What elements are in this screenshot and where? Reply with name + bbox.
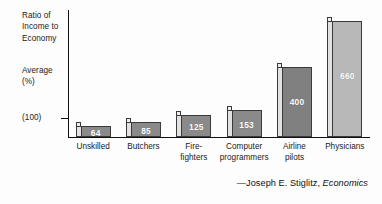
y-axis-title: Ratio of Income to Economy — [22, 10, 68, 44]
x-axis-label-line: fighters — [169, 153, 219, 164]
x-axis-label-butchers: Butchers — [118, 142, 168, 153]
bar-butchers: 85 — [126, 118, 161, 137]
x-axis-label-line: Airline — [269, 142, 319, 153]
bar-front-face: 125 — [181, 115, 211, 137]
x-axis-label-physicians: Physicians — [320, 142, 370, 153]
bar-front-face: 400 — [282, 67, 312, 137]
plot-area: 6485125153400660 — [68, 10, 370, 137]
bar-front-face: 660 — [332, 21, 362, 137]
bar-value-label: 660 — [333, 71, 361, 81]
x-axis-label-line: Computer — [219, 142, 269, 153]
bar-value-label: 85 — [132, 126, 160, 136]
bar-airline-pilots: 400 — [277, 63, 312, 137]
bar-value-label: 153 — [233, 120, 261, 130]
bar-fire-fighters: 125 — [176, 111, 211, 137]
x-axis-label-line: Physicians — [320, 142, 370, 153]
x-axis-label-line: pilots — [269, 153, 319, 164]
bar-value-label: 400 — [283, 97, 311, 107]
bar-front-face: 153 — [232, 110, 262, 137]
x-axis-label-unskilled: Unskilled — [68, 142, 118, 153]
bar-front-face: 85 — [131, 122, 161, 137]
attribution-author: —Joseph E. Stiglitz, — [237, 178, 320, 188]
y-axis-subtitle-line-1: Average — [22, 65, 68, 76]
x-axis-label-line: Unskilled — [68, 142, 118, 153]
y-axis-baseline-label: (100) — [22, 112, 64, 123]
chart-figure: Ratio of Income to Economy Average (%) (… — [0, 0, 382, 204]
x-axis-label-line: Fire- — [169, 142, 219, 153]
x-axis-label-line: programmers — [219, 153, 269, 164]
y-axis-title-line-2: Income to — [22, 21, 68, 32]
attribution-work: Economics — [323, 178, 368, 188]
x-axis-label-airline-pilots: Airlinepilots — [269, 142, 319, 163]
attribution: —Joseph E. Stiglitz, Economics — [237, 178, 368, 188]
y-axis-title-line-1: Ratio of — [22, 10, 68, 21]
bar-front-face: 64 — [81, 126, 111, 137]
y-axis-title-line-3: Economy — [22, 33, 68, 44]
bar-unskilled: 64 — [76, 122, 111, 137]
y-axis-subtitle: Average (%) — [22, 65, 68, 88]
bar-computer-programmers: 153 — [227, 106, 262, 137]
bar-physicians: 660 — [327, 17, 362, 137]
x-axis-label-computer-programmers: Computerprogrammers — [219, 142, 269, 163]
x-axis-label-line: Butchers — [118, 142, 168, 153]
bar-value-label: 125 — [182, 122, 210, 132]
bar-value-label: 64 — [82, 128, 110, 138]
x-axis-label-fire-fighters: Fire-fighters — [169, 142, 219, 163]
y-axis-subtitle-line-2: (%) — [22, 76, 68, 87]
